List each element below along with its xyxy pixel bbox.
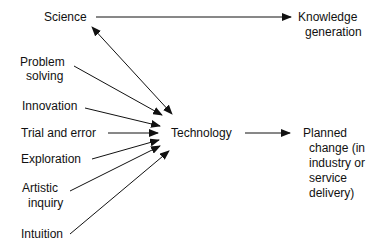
node-planned-line4: service bbox=[309, 171, 347, 185]
arrow-exploration-technology bbox=[92, 140, 159, 159]
node-intuition: Intuition bbox=[21, 227, 63, 241]
arrow-intuition-technology bbox=[70, 151, 169, 234]
arrow-problem-technology bbox=[74, 66, 162, 115]
node-planned-line1: Planned bbox=[303, 126, 347, 140]
node-knowledge-line2: generation bbox=[305, 25, 362, 39]
node-knowledge-line1: Knowledge bbox=[298, 10, 357, 24]
node-artistic-line1: Artistic bbox=[22, 181, 58, 195]
arrow-science-technology bbox=[92, 27, 172, 114]
node-problem-line1: Problem bbox=[20, 55, 65, 69]
node-innovation: Innovation bbox=[22, 99, 77, 113]
arrow-innovation-technology bbox=[85, 108, 160, 126]
node-science: Science bbox=[44, 10, 87, 24]
node-planned-line2: change (in bbox=[309, 141, 365, 155]
node-technology: Technology bbox=[171, 126, 232, 140]
node-trial-and-error: Trial and error bbox=[21, 126, 96, 140]
node-problem-line2: solving bbox=[26, 69, 63, 83]
node-exploration: Exploration bbox=[21, 152, 81, 166]
node-planned-line3: industry or bbox=[309, 156, 365, 170]
node-planned-line5: delivery) bbox=[309, 186, 354, 200]
node-artistic-line2: inquiry bbox=[28, 196, 63, 210]
